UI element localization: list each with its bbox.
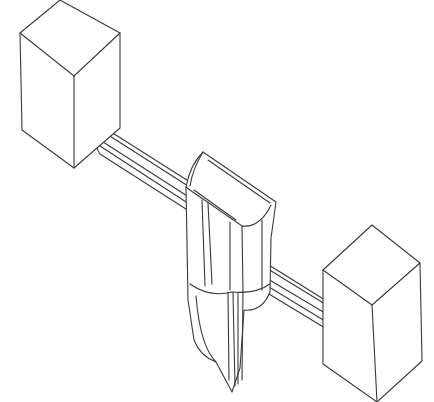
center-part [186,152,276,392]
assembly-drawing [0,0,434,402]
right-block [323,225,422,402]
diagram-canvas [0,0,434,402]
